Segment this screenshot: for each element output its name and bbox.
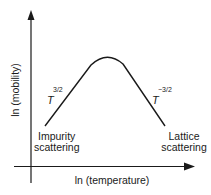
lattice-label-line2: scattering (161, 141, 207, 153)
x-axis-arrow-icon (184, 163, 195, 171)
y-axis-label: ln (mobility) (9, 63, 21, 117)
y-axis-arrow-icon (28, 10, 35, 20)
x-axis-label: ln (temperature) (75, 174, 150, 186)
right-exponent: −3/2 (158, 86, 172, 93)
mobility-temperature-diagram: ln (mobility) ln (temperature) T 3/2 T −… (0, 0, 211, 195)
right-exponent-base: T (152, 94, 160, 106)
impurity-label-line2: scattering (34, 141, 80, 153)
left-exponent-base: T (47, 94, 55, 106)
mobility-curve (45, 57, 165, 126)
left-exponent: 3/2 (53, 86, 63, 93)
